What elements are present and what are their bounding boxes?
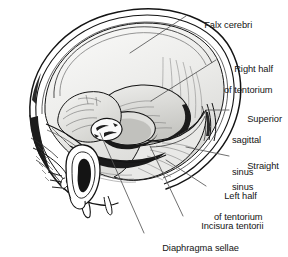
label-superior-sagittal-sinus-line2: sagittal bbox=[232, 135, 282, 146]
label-straight-sinus-line1: Straight bbox=[247, 161, 279, 171]
label-falx-cerebri-line1: Falx cerebri bbox=[204, 20, 252, 30]
label-incisura-tentorii-line1: Incisura tentorii bbox=[201, 221, 263, 231]
label-diaphragma-sellae-line1: Diaphragma sellae bbox=[162, 243, 239, 253]
label-falx-cerebri: Falx cerebri bbox=[189, 9, 252, 41]
label-superior-sagittal-sinus-line1: Superior bbox=[247, 114, 282, 124]
label-right-half-of-tentorium-line1: Right half bbox=[234, 64, 273, 74]
label-left-half-of-tentorium-line1: Left half bbox=[224, 191, 257, 201]
label-diaphragma-sellae: Diaphragma sellae bbox=[147, 232, 239, 257]
label-right-half-of-tentorium-line2: of tentorium bbox=[219, 85, 273, 96]
